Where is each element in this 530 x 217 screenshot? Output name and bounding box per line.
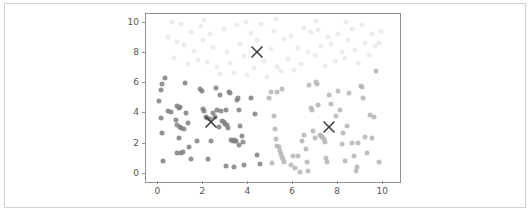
x-axis-tick xyxy=(157,181,158,184)
centroid-marker xyxy=(205,115,218,128)
x-axis-tick-label: 2 xyxy=(199,186,205,196)
x-axis-tick xyxy=(337,181,338,184)
y-axis-tick-label: 4 xyxy=(121,107,139,117)
y-axis-tick-label: 8 xyxy=(121,47,139,57)
y-axis-tick xyxy=(142,22,145,23)
y-axis-tick-label: 10 xyxy=(121,17,139,27)
y-axis-tick xyxy=(142,52,145,53)
plot-area xyxy=(145,13,401,183)
y-axis-tick-label: 0 xyxy=(121,168,139,178)
y-axis-tick xyxy=(142,143,145,144)
x-axis-tick xyxy=(292,181,293,184)
scatter-plot-figure: 02468100246810 xyxy=(0,0,530,217)
y-axis-tick xyxy=(142,82,145,83)
x-axis-tick-label: 0 xyxy=(154,186,160,196)
centroid-marker xyxy=(323,121,336,134)
x-axis-tick-label: 10 xyxy=(376,186,387,196)
x-axis-tick xyxy=(247,181,248,184)
y-axis-tick xyxy=(142,112,145,113)
x-axis-tick-label: 6 xyxy=(289,186,295,196)
centroid-markers-layer xyxy=(146,14,400,182)
x-axis-tick xyxy=(202,181,203,184)
x-axis-tick xyxy=(382,181,383,184)
x-axis-tick-label: 8 xyxy=(334,186,340,196)
x-axis-tick-label: 4 xyxy=(244,186,250,196)
y-axis-tick-label: 2 xyxy=(121,138,139,148)
y-axis-tick-label: 6 xyxy=(121,77,139,87)
y-axis-tick xyxy=(142,173,145,174)
centroid-marker xyxy=(251,46,264,59)
